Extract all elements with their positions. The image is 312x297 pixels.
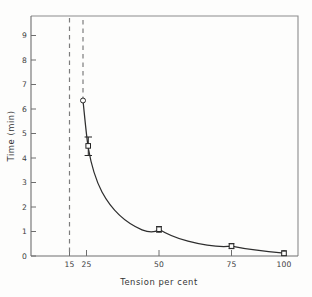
y-tick-label: 8 bbox=[22, 56, 27, 65]
plot-background bbox=[31, 16, 298, 256]
y-tick-label: 0 bbox=[22, 252, 27, 261]
data-point-marker bbox=[157, 227, 162, 232]
x-tick-label: 100 bbox=[276, 260, 291, 269]
x-tick-label: 50 bbox=[154, 260, 164, 269]
y-tick-label: 3 bbox=[22, 178, 27, 187]
data-point-marker bbox=[81, 98, 86, 103]
data-point-marker bbox=[86, 144, 91, 149]
data-point-marker bbox=[229, 244, 234, 249]
y-tick-label: 2 bbox=[22, 203, 27, 212]
x-tick-label: 75 bbox=[226, 260, 236, 269]
y-tick-label: 7 bbox=[22, 80, 27, 89]
y-axis-tick-labels: 0 1 2 3 4 5 6 7 8 9 bbox=[22, 31, 27, 261]
chart-figure: 0 1 2 3 4 5 6 7 8 9 15 25 50 75 100 bbox=[0, 0, 312, 297]
y-tick-label: 4 bbox=[22, 154, 27, 163]
y-tick-label: 6 bbox=[22, 105, 27, 114]
x-tick-label: 25 bbox=[81, 260, 91, 269]
x-tick-label: 15 bbox=[64, 260, 74, 269]
x-axis-tick-labels: 15 25 50 75 100 bbox=[64, 260, 291, 269]
y-axis-title: Time (min) bbox=[6, 111, 16, 163]
y-tick-label: 9 bbox=[22, 31, 27, 40]
data-point-marker bbox=[282, 251, 287, 256]
y-tick-label: 5 bbox=[22, 129, 27, 138]
tension-time-line-chart: 0 1 2 3 4 5 6 7 8 9 15 25 50 75 100 bbox=[0, 0, 312, 297]
y-tick-label: 1 bbox=[22, 227, 27, 236]
x-axis-title: Tension per cent bbox=[119, 277, 198, 287]
